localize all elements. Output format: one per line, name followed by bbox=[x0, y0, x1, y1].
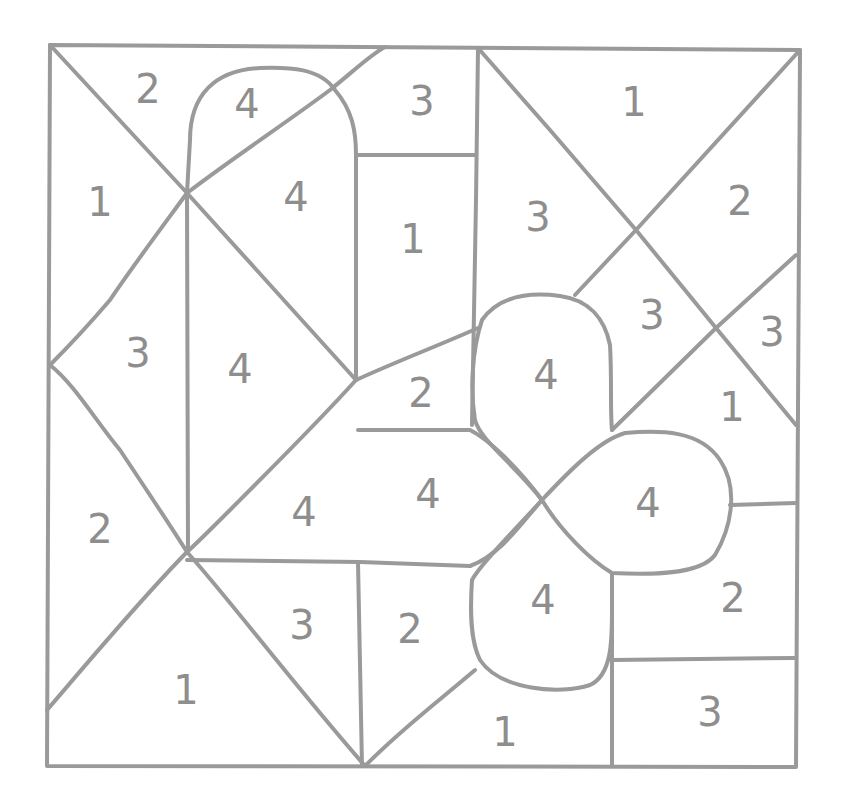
region-number: 4 bbox=[283, 174, 308, 220]
region-number: 3 bbox=[125, 330, 150, 376]
line bbox=[47, 552, 187, 710]
region-number: 1 bbox=[400, 216, 425, 262]
region-number: 3 bbox=[639, 292, 664, 338]
region-number: 1 bbox=[492, 709, 517, 755]
region-number: 3 bbox=[409, 78, 434, 124]
region-number: 4 bbox=[227, 346, 252, 392]
region-number: 2 bbox=[397, 606, 422, 652]
region-number: 2 bbox=[727, 178, 752, 224]
region-number: 4 bbox=[533, 352, 558, 398]
region-number: 1 bbox=[173, 667, 198, 713]
region-number: 3 bbox=[759, 309, 784, 355]
region-number: 4 bbox=[234, 81, 259, 127]
line bbox=[575, 50, 800, 295]
region-number: 3 bbox=[525, 194, 550, 240]
region-number: 3 bbox=[697, 689, 722, 735]
puzzle-drawing: 2 4 3 1 1 4 1 3 2 3 4 2 4 3 3 1 2 4 4 4 … bbox=[0, 0, 841, 801]
region-number: 4 bbox=[635, 480, 660, 526]
region-number: 4 bbox=[530, 577, 555, 623]
region-number: 4 bbox=[415, 471, 440, 517]
line bbox=[365, 670, 475, 766]
line bbox=[187, 552, 365, 766]
line bbox=[730, 503, 796, 505]
region-number: 3 bbox=[289, 602, 314, 648]
line bbox=[187, 140, 190, 552]
region-number: 4 bbox=[291, 489, 316, 535]
region-number: 2 bbox=[87, 506, 112, 552]
line bbox=[50, 193, 187, 365]
line bbox=[187, 380, 356, 552]
line bbox=[187, 560, 470, 566]
region-number: 2 bbox=[135, 66, 160, 112]
region-number: 1 bbox=[87, 179, 112, 225]
region-number: 2 bbox=[408, 370, 433, 416]
color-by-number-puzzle: 2 4 3 1 1 4 1 3 2 3 4 2 4 3 3 1 2 4 4 4 … bbox=[0, 0, 841, 801]
region-number: 2 bbox=[720, 575, 745, 621]
line bbox=[358, 562, 362, 766]
region-number: 1 bbox=[719, 384, 744, 430]
region-number: 1 bbox=[621, 79, 646, 125]
region-numbers: 2 4 3 1 1 4 1 3 2 3 4 2 4 3 3 1 2 4 4 4 … bbox=[87, 66, 784, 755]
line bbox=[358, 430, 542, 500]
line bbox=[612, 658, 796, 660]
line bbox=[50, 365, 187, 552]
